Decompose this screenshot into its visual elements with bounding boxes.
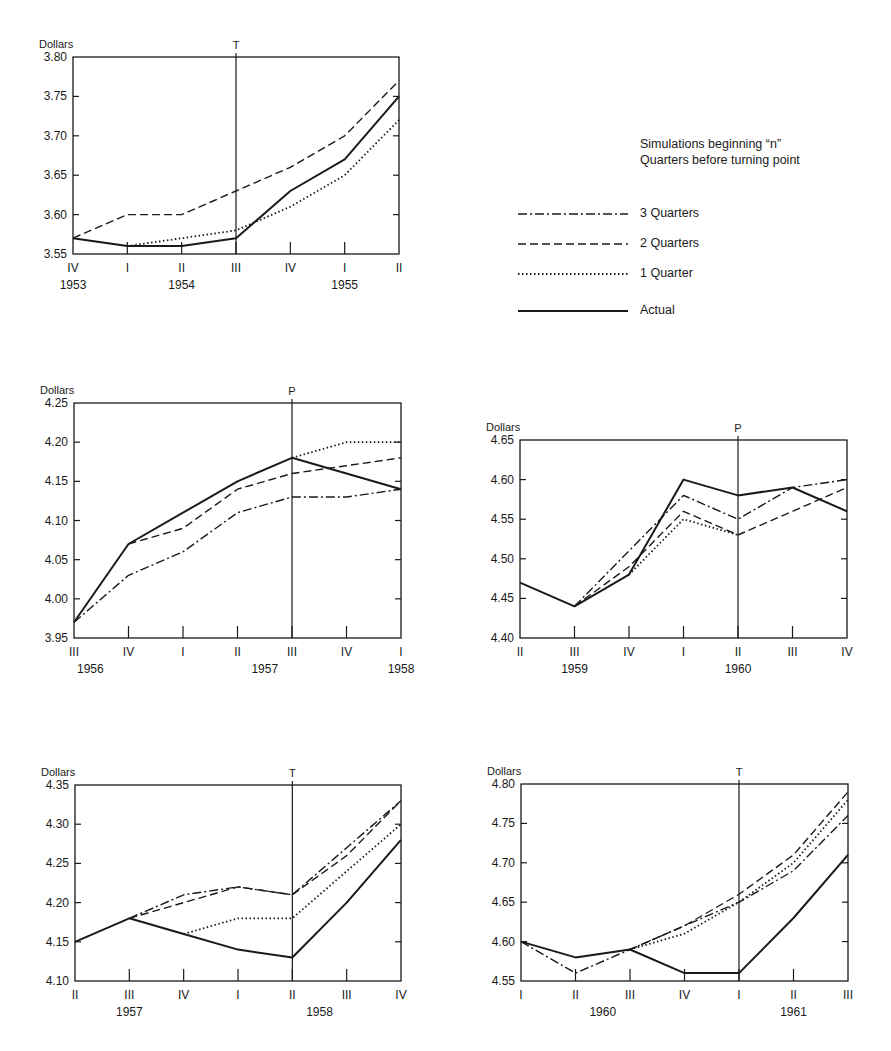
x-tick-label: I (737, 988, 740, 1002)
y-tick-label: 4.00 (45, 592, 69, 606)
y-tick-label: 4.45 (491, 591, 515, 605)
y-tick-label: 4.25 (45, 396, 69, 410)
x-tick-label: I (181, 645, 184, 659)
y-tick-label: 4.40 (491, 631, 515, 645)
y-tick-label: 4.55 (491, 512, 515, 526)
x-tick-label: III (625, 988, 635, 1002)
x-tick-label: II (735, 645, 742, 659)
y-tick-label: 4.80 (492, 777, 516, 791)
y-tick-label: 4.65 (492, 895, 516, 909)
x-year-label: 1956 (77, 662, 104, 676)
x-tick-label: I (682, 645, 685, 659)
turning-point-label: P (288, 385, 295, 397)
y-tick-label: 4.05 (45, 553, 69, 567)
x-tick-label: IV (285, 261, 296, 275)
legend-swatches (518, 214, 628, 311)
x-tick-label: II (396, 261, 403, 275)
x-tick-label: II (790, 988, 797, 1002)
x-year-label: 1957 (251, 662, 278, 676)
turning-point-label: T (289, 767, 296, 779)
series-1-quarter (292, 442, 401, 458)
x-tick-label: III (231, 261, 241, 275)
turning-point-label: P (734, 422, 741, 434)
y-tick-label: 4.55 (492, 974, 516, 988)
x-year-label: 1954 (168, 278, 195, 292)
x-tick-label: I (343, 261, 346, 275)
y-axis-label: Dollars (487, 765, 522, 777)
series-actual (75, 840, 401, 958)
y-tick-label: 4.60 (492, 935, 516, 949)
chart-3: Dollars4.404.454.504.554.604.65IIIIIIVII… (486, 421, 853, 676)
series-3-quarters (575, 480, 848, 607)
legend-item-3-quarters: 3 Quarters (640, 206, 699, 220)
turning-point-label: T (736, 766, 743, 778)
y-tick-label: 4.10 (45, 514, 69, 528)
series-actual (74, 458, 401, 623)
y-tick-label: 4.60 (491, 473, 515, 487)
x-tick-label: II (572, 988, 579, 1002)
y-tick-label: 4.10 (46, 974, 70, 988)
x-year-label: 1960 (725, 662, 752, 676)
x-tick-label: IV (395, 988, 406, 1002)
x-tick-label: IV (67, 261, 78, 275)
x-year-label: 1955 (331, 278, 358, 292)
x-tick-label: I (236, 988, 239, 1002)
x-tick-label: II (517, 645, 524, 659)
y-tick-label: 4.50 (491, 552, 515, 566)
x-year-label: 1957 (116, 1005, 143, 1019)
y-tick-label: 4.20 (46, 896, 70, 910)
x-tick-label: IV (679, 988, 690, 1002)
legend-title-line2: Quarters before turning point (640, 152, 800, 168)
y-tick-label: 4.20 (45, 435, 69, 449)
x-year-label: 1958 (306, 1005, 333, 1019)
chart-2: Dollars3.954.004.054.104.154.204.25IIIIV… (40, 384, 415, 676)
x-tick-label: IV (623, 645, 634, 659)
legend-item-1-quarter: 1 Quarter (640, 266, 693, 280)
x-tick-label: IV (341, 645, 352, 659)
x-tick-label: I (126, 261, 129, 275)
series-3-quarters (74, 489, 401, 622)
x-tick-label: III (569, 645, 579, 659)
x-tick-label: III (342, 988, 352, 1002)
y-tick-label: 3.65 (44, 168, 68, 182)
legend-item-actual: Actual (640, 303, 675, 317)
y-tick-label: 3.60 (44, 208, 68, 222)
series-actual (521, 855, 848, 973)
plot-frame (520, 440, 847, 638)
series-2-quarters (575, 488, 848, 607)
x-tick-label: III (69, 645, 79, 659)
y-tick-label: 4.15 (45, 474, 69, 488)
x-tick-label: III (843, 988, 853, 1002)
x-tick-label: I (519, 988, 522, 1002)
y-tick-label: 3.80 (44, 50, 68, 64)
y-tick-label: 4.15 (46, 935, 70, 949)
plot-frame (521, 784, 848, 981)
y-tick-label: 4.65 (491, 433, 515, 447)
chart-4: Dollars4.104.154.204.254.304.35IIIIIIVII… (41, 766, 407, 1019)
x-year-label: 1958 (388, 662, 415, 676)
legend-title: Simulations beginning “n” Quarters befor… (640, 136, 800, 168)
y-axis-label: Dollars (40, 384, 75, 396)
x-tick-label: IV (123, 645, 134, 659)
y-tick-label: 4.35 (46, 778, 70, 792)
y-tick-label: 3.70 (44, 129, 68, 143)
y-tick-label: 3.95 (45, 631, 69, 645)
x-year-label: 1960 (589, 1005, 616, 1019)
x-tick-label: II (234, 645, 241, 659)
y-axis-label: Dollars (486, 421, 521, 433)
y-tick-label: 4.30 (46, 817, 70, 831)
legend-item-2-quarters: 2 Quarters (640, 236, 699, 250)
series-1-quarter (127, 120, 399, 246)
x-tick-label: II (178, 261, 185, 275)
series-actual (520, 480, 847, 607)
x-year-label: 1953 (60, 278, 87, 292)
x-year-label: 1961 (780, 1005, 807, 1019)
x-tick-label: IV (841, 645, 852, 659)
x-tick-label: II (72, 988, 79, 1002)
legend-title-line1: Simulations beginning “n” (640, 136, 800, 152)
turning-point-label: T (233, 39, 240, 51)
x-tick-label: III (124, 988, 134, 1002)
y-tick-label: 3.75 (44, 89, 68, 103)
y-tick-label: 4.75 (492, 816, 516, 830)
x-tick-label: III (287, 645, 297, 659)
